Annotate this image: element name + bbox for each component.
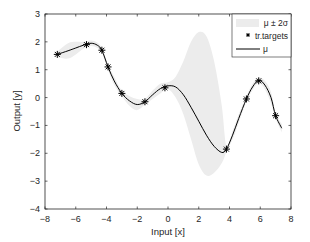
target-point [243, 95, 250, 102]
x-tick-label: 0 [165, 214, 170, 224]
gp-regression-chart: −8−6−4−202468 −4−3−2−10123 Input [x] Out… [0, 0, 310, 242]
legend-band-swatch [236, 19, 259, 27]
x-tick-label: −6 [71, 214, 81, 224]
target-point [118, 90, 125, 97]
x-tick-label: −8 [40, 214, 50, 224]
y-tick-label: 3 [35, 9, 40, 19]
training-targets [54, 41, 279, 152]
target-point [83, 41, 90, 48]
legend-label-mean: μ [263, 44, 268, 54]
x-tick-label: 6 [258, 214, 263, 224]
target-point [255, 77, 262, 84]
target-point [141, 98, 148, 105]
target-point [98, 47, 105, 54]
y-tick-label: 2 [35, 37, 40, 47]
y-tick-label: −4 [30, 204, 40, 214]
x-tick-label: −2 [132, 214, 142, 224]
target-point [223, 146, 230, 153]
target-point [272, 112, 279, 119]
y-tick-label: −1 [30, 120, 40, 130]
target-point [105, 63, 112, 70]
x-tick-label: 2 [196, 214, 201, 224]
y-axis-label: Output [y] [11, 90, 22, 131]
x-tick-label: −4 [101, 214, 111, 224]
legend-label-band: μ ± 2σ [264, 18, 289, 28]
x-axis-label: Input [x] [151, 226, 185, 237]
x-tick-label: 8 [288, 214, 293, 224]
y-tick-label: −2 [30, 148, 40, 158]
asterisk-glyph [246, 33, 250, 37]
y-tick-label: −3 [30, 176, 40, 186]
x-tick-label: 4 [227, 214, 232, 224]
target-point [54, 51, 61, 58]
target-point [161, 84, 168, 91]
legend-label-targets: tr.targets [255, 31, 288, 41]
asterisk-icon [246, 33, 250, 37]
y-tick-label: 0 [35, 93, 40, 103]
legend: μ ± 2σ tr.targets μ [232, 14, 291, 57]
y-tick-label: 1 [35, 65, 40, 75]
